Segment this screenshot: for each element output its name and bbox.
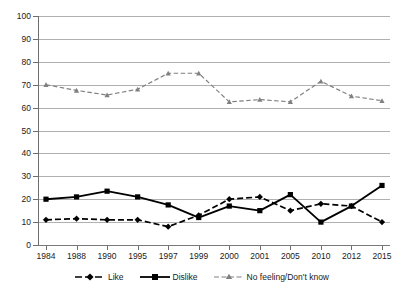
legend-label-no-feeling: No feeling/Don't know: [247, 272, 329, 282]
series-line: [46, 73, 382, 102]
data-point: [43, 197, 48, 202]
data-point: [196, 215, 201, 220]
data-point: [288, 192, 293, 197]
data-point: [226, 196, 232, 202]
data-point: [73, 216, 79, 222]
legend-label-like: Like: [108, 272, 124, 282]
data-point: [349, 94, 354, 99]
legend-item-like: Like: [75, 272, 124, 282]
data-point: [135, 217, 141, 223]
data-point: [104, 217, 110, 223]
data-point: [318, 79, 323, 84]
data-point: [379, 183, 384, 188]
data-point: [135, 194, 140, 199]
legend-swatch-like: [75, 272, 105, 282]
data-point: [379, 219, 385, 225]
line-chart: 1009080706050403020100 19841988199019951…: [0, 0, 404, 294]
data-point: [43, 217, 49, 223]
data-point: [318, 201, 324, 207]
data-point: [74, 194, 79, 199]
series-no-feeling-don-t-know: [43, 71, 384, 104]
legend-label-dislike: Dislike: [173, 272, 198, 282]
data-point: [318, 220, 323, 225]
legend-swatch-dislike: [140, 272, 170, 282]
data-point: [349, 203, 354, 208]
series-dislike: [43, 183, 384, 225]
legend-item-no-feeling: No feeling/Don't know: [214, 272, 329, 282]
data-point: [227, 203, 232, 208]
data-point: [257, 208, 262, 213]
data-point: [104, 189, 109, 194]
data-point: [287, 208, 293, 214]
data-series-layer: [0, 0, 404, 294]
data-point: [257, 194, 263, 200]
legend-swatch-no-feeling: [214, 272, 244, 282]
chart-legend: Like Dislike No feeling/Don't know: [0, 272, 404, 282]
data-point: [166, 202, 171, 207]
series-line: [46, 185, 382, 222]
data-point: [165, 224, 171, 230]
legend-item-dislike: Dislike: [140, 272, 198, 282]
